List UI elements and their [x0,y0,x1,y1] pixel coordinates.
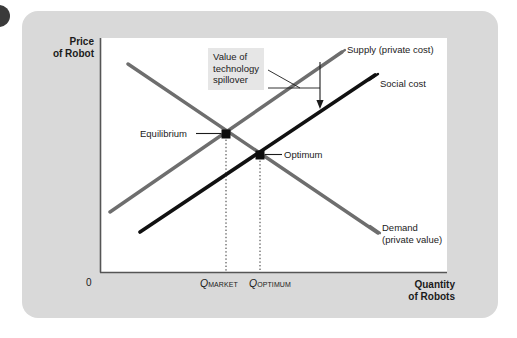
optimum-label: Optimum [284,149,323,161]
spillover-line3: spillover [213,74,248,85]
y-axis-title-line1: Price [70,36,94,47]
origin-label: 0 [86,277,92,289]
figure-root: Price of Robot Quantity of Robots 0 Supp… [0,0,517,338]
x-tick-q-optimum: QOPTIMUM [249,277,291,289]
x-axis-title: Quantity of Robots [393,279,455,303]
x-tick-q-market: QMARKET [200,277,238,289]
q-market-symbol: Q [200,277,208,289]
demand-label-line2: (private value) [382,234,442,245]
demand-label-line1: Demand [382,222,418,233]
spillover-line1: Value of [213,51,247,62]
equilibrium-label: Equilibrium [140,128,187,140]
spillover-gap-arrow-head [316,100,323,109]
spillover-line2: technology [213,63,259,74]
supply-curve-label: Supply (private cost) [347,44,434,56]
q-optimum-subscript: OPTIMUM [257,281,291,288]
x-axis-title-line1: Quantity [414,279,455,290]
spillover-annotation: Value of technology spillover [208,48,264,90]
equilibrium-point-marker [222,130,231,139]
optimum-point-marker [256,151,265,160]
demand-curve-label: Demand (private value) [382,222,474,246]
q-market-subscript: MARKET [208,281,238,288]
y-axis-title: Price of Robot [46,36,94,60]
y-axis-title-line2: of Robot [53,48,94,59]
q-optimum-symbol: Q [249,277,257,289]
x-axis-title-line2: of Robots [408,291,455,302]
supply-label-leader [336,50,345,56]
spillover-leader-line-1 [268,70,300,88]
social-cost-curve-label: Social cost [380,78,426,90]
